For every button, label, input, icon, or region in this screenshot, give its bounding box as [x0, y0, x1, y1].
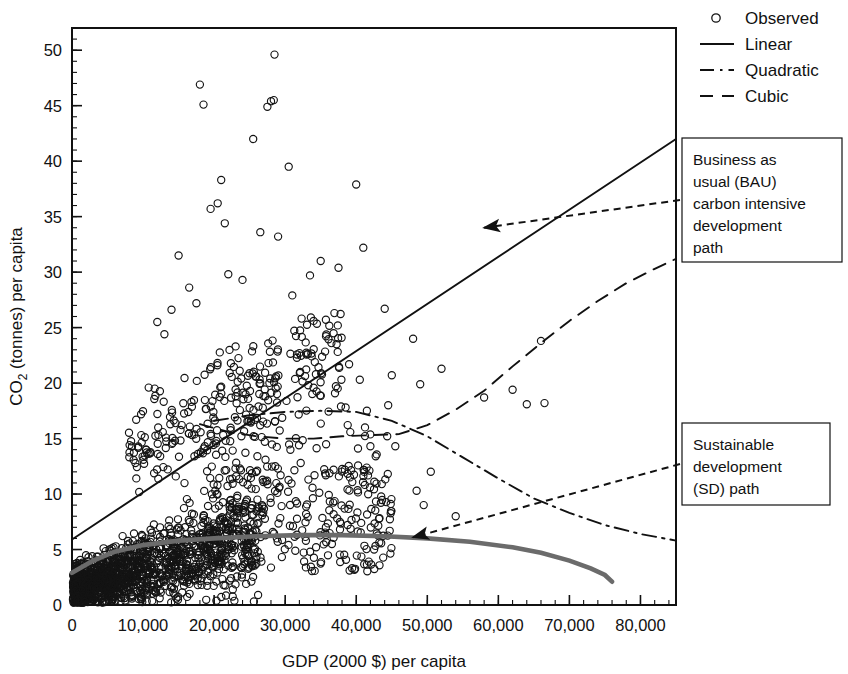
observed-point — [410, 335, 417, 342]
observed-point — [313, 445, 320, 452]
observed-point — [252, 486, 259, 493]
observed-point — [275, 233, 282, 240]
y-label-rest: (tonnes) per capita — [7, 227, 26, 374]
observed-point — [319, 514, 326, 521]
observed-point — [266, 348, 273, 355]
observed-point — [346, 487, 353, 494]
observed-point — [164, 466, 171, 473]
observed-point — [193, 300, 200, 307]
observed-point — [229, 447, 236, 454]
observed-point — [293, 515, 300, 522]
y-tick-label: 30 — [44, 263, 62, 281]
observed-point — [207, 475, 214, 482]
observed-point — [417, 381, 424, 388]
observed-point — [353, 552, 360, 559]
observed-point — [201, 487, 208, 494]
y-tick-label: 50 — [44, 41, 62, 59]
observed-point — [154, 318, 161, 325]
observed-point — [250, 343, 257, 350]
observed-point — [262, 456, 269, 463]
observed-point — [420, 502, 427, 509]
observed-point — [216, 349, 223, 356]
observed-point — [221, 220, 228, 227]
observed-point — [255, 403, 262, 410]
y-tick-label: 35 — [44, 208, 62, 226]
observed-point — [218, 176, 225, 183]
observed-point — [292, 498, 299, 505]
observed-point — [376, 562, 383, 569]
observed-point — [361, 424, 368, 431]
observed-point — [222, 592, 229, 599]
observed-point — [347, 429, 354, 436]
observed-point — [365, 491, 372, 498]
annotation-line: development — [693, 458, 782, 475]
observed-point — [125, 429, 132, 436]
observed-point — [381, 305, 388, 312]
observed-point — [256, 363, 263, 370]
observed-point — [385, 402, 392, 409]
annotation-line: usual (BAU) — [693, 173, 777, 190]
observed-point — [295, 442, 302, 449]
observed-point — [294, 394, 301, 401]
observed-point — [271, 418, 278, 425]
legend-label-linear: Linear — [745, 35, 793, 54]
observed-point — [305, 476, 312, 483]
observed-point — [232, 343, 239, 350]
observed-point — [358, 519, 365, 526]
observed-point — [233, 400, 240, 407]
observed-point — [323, 441, 330, 448]
observed-point — [201, 371, 208, 378]
observed-point — [387, 500, 394, 507]
y-axis-label-text: CO2 (tonnes) per capita — [7, 227, 30, 406]
observed-point — [380, 554, 387, 561]
observed-point — [334, 348, 341, 355]
observed-point — [133, 416, 140, 423]
y-tick-label: 25 — [44, 319, 62, 337]
observed-point — [413, 487, 420, 494]
observed-point — [279, 414, 286, 421]
observed-point — [265, 360, 272, 367]
observed-point — [278, 554, 285, 561]
observed-point — [354, 445, 361, 452]
annotation-line: path — [693, 239, 723, 256]
observed-point — [317, 379, 324, 386]
observed-point — [254, 453, 261, 460]
legend-label-cubic: Cubic — [745, 87, 789, 106]
observed-point — [208, 463, 215, 470]
observed-point — [168, 306, 175, 313]
observed-point — [309, 484, 316, 491]
legend-label-quadratic: Quadratic — [745, 61, 819, 80]
observed-point — [228, 394, 235, 401]
observed-point — [214, 200, 221, 207]
y-tick-label: 5 — [53, 541, 62, 559]
observed-point — [285, 488, 292, 495]
observed-point — [186, 423, 193, 430]
observed-point — [388, 372, 395, 379]
observed-point — [291, 467, 298, 474]
x-tick-label: 40,000 — [331, 616, 381, 634]
observed-point — [174, 516, 181, 523]
x-axis-label: GDP (2000 $) per capita — [282, 652, 466, 671]
annotation-line: development — [693, 217, 782, 234]
observed-point — [292, 547, 299, 554]
annotation-bau: Business asusual (BAU)carbon intensivede… — [484, 138, 842, 262]
observed-point — [221, 397, 228, 404]
curve-linear — [72, 139, 676, 540]
observed-point — [523, 401, 530, 408]
chart-figure: 010,00020,00030,00040,00050,00060,00070,… — [0, 0, 848, 674]
observed-point — [303, 321, 310, 328]
observed-point — [200, 101, 207, 108]
observed-point — [161, 331, 168, 338]
x-tick-label: 70,000 — [544, 616, 594, 634]
observed-point — [264, 103, 271, 110]
observed-point — [154, 440, 161, 447]
observed-point — [317, 420, 324, 427]
observed-point — [204, 468, 211, 475]
observed-point — [236, 407, 243, 414]
observed-point — [360, 244, 367, 251]
observed-point — [346, 361, 353, 368]
y-tick-label: 15 — [44, 430, 62, 448]
observed-point — [438, 365, 445, 372]
observed-point — [364, 568, 371, 575]
observed-point — [346, 501, 353, 508]
